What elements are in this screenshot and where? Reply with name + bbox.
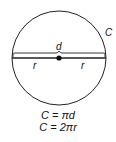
radius-label-left: r [33,60,37,71]
radius-label-right: r [81,60,85,71]
circle-diagram: d r r C C = πd C = 2πr [0,0,116,142]
center-point [56,55,61,60]
formula-diameter: C = πd [0,109,116,121]
formula-radius: C = 2πr [0,121,116,133]
formula-block: C = πd C = 2πr [0,109,116,133]
diameter-label: d [56,41,62,52]
circumference-label: C [105,27,113,38]
